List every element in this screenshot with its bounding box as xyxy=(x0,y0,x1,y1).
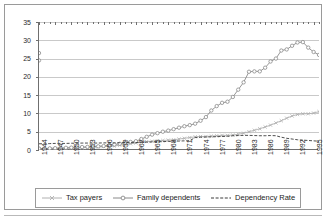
data-point-marker xyxy=(161,130,164,133)
legend-label: Dependency Rate xyxy=(235,194,295,202)
data-point-marker xyxy=(102,144,105,147)
x-tick-label: 1980 xyxy=(235,139,242,155)
data-point-marker xyxy=(97,145,100,148)
data-point-marker xyxy=(263,66,266,69)
data-point-marker xyxy=(290,44,293,47)
y-tick-label: 15 xyxy=(9,92,31,99)
data-point-marker xyxy=(48,147,51,150)
y-tick-label: 5 xyxy=(9,128,31,135)
data-point-marker xyxy=(274,57,277,60)
x-tick-label: 1986 xyxy=(267,139,274,155)
data-point-marker xyxy=(226,100,229,103)
y-tick-label: 25 xyxy=(9,55,31,62)
data-point-marker xyxy=(296,41,299,44)
data-point-marker xyxy=(210,109,213,112)
y-tick-label: 10 xyxy=(9,110,31,117)
x-tick-label: 1995 xyxy=(316,139,323,155)
legend-swatch-icon xyxy=(112,194,134,202)
data-point-marker xyxy=(317,53,319,56)
series-lines xyxy=(39,22,319,150)
data-point-marker xyxy=(188,123,191,126)
data-point-marker xyxy=(39,59,41,62)
legend-label: Tax payers xyxy=(66,194,102,202)
data-point-marker xyxy=(312,50,315,53)
data-point-marker xyxy=(80,145,83,148)
data-point-marker xyxy=(193,122,196,125)
x-tick-label: 1956 xyxy=(106,139,113,155)
data-point-marker xyxy=(258,70,261,73)
x-tick-label: 1977 xyxy=(219,139,226,155)
data-point-marker xyxy=(177,126,180,129)
y-tick-label: 30 xyxy=(9,37,31,44)
x-tick-label: 1971 xyxy=(186,139,193,155)
y-tick-label: 35 xyxy=(9,19,31,26)
x-tick-label: 1992 xyxy=(299,139,306,155)
x-tick-label: 1959 xyxy=(122,139,129,155)
chart-frame: 05101520253035 1944194719501953195619591… xyxy=(4,4,322,210)
x-tick-label: 1962 xyxy=(138,139,145,155)
x-tick-label: 1983 xyxy=(251,139,258,155)
data-point-marker xyxy=(285,48,288,51)
data-point-marker xyxy=(280,49,283,52)
chart-figure: 05101520253035 1944194719501953195619591… xyxy=(0,0,328,220)
legend-swatch-icon xyxy=(41,194,63,202)
data-point-marker xyxy=(156,131,159,134)
data-point-marker xyxy=(145,135,148,138)
data-point-marker xyxy=(204,115,207,118)
data-point-marker xyxy=(64,146,67,149)
data-point-marker xyxy=(247,70,250,73)
x-tick-label: 1989 xyxy=(283,139,290,155)
data-point-marker xyxy=(301,40,304,43)
y-tick-label: 20 xyxy=(9,73,31,80)
x-tick-label: 1974 xyxy=(203,139,210,155)
data-point-marker xyxy=(199,119,202,122)
data-point-marker xyxy=(237,88,240,91)
x-tick-mark xyxy=(319,22,320,24)
data-point-marker xyxy=(242,81,245,84)
data-point-marker xyxy=(231,95,234,98)
data-point-marker xyxy=(150,133,153,136)
x-tick-label: 1944 xyxy=(41,139,48,155)
legend-entry-tax-payers[interactable]: Tax payers xyxy=(41,194,102,202)
data-point-marker xyxy=(183,125,186,128)
data-point-marker xyxy=(220,101,223,104)
data-point-marker xyxy=(172,127,175,130)
legend-label: Family dependents xyxy=(137,194,200,202)
data-point-marker xyxy=(215,104,218,107)
x-tick-label: 1953 xyxy=(89,139,96,155)
y-tick-mark xyxy=(36,150,39,151)
legend-entry-dependency-rate[interactable]: Dependency Rate xyxy=(210,194,295,202)
data-point-marker xyxy=(307,46,310,49)
chart-legend: Tax payersFamily dependentsDependency Ra… xyxy=(35,188,301,208)
x-tick-label: 1950 xyxy=(73,139,80,155)
x-tick-label: 1965 xyxy=(154,139,161,155)
legend-swatch-icon xyxy=(210,194,232,202)
data-point-marker xyxy=(269,60,272,63)
y-tick-label: 0 xyxy=(9,147,31,154)
x-tick-label: 1947 xyxy=(57,139,64,155)
legend-entry-family-dependents[interactable]: Family dependents xyxy=(112,194,200,202)
data-point-marker xyxy=(39,51,41,54)
data-point-marker xyxy=(253,70,256,73)
data-point-marker xyxy=(167,129,170,132)
bottom-divider xyxy=(4,215,322,216)
plot-area xyxy=(38,22,318,150)
x-tick-label: 1968 xyxy=(170,139,177,155)
